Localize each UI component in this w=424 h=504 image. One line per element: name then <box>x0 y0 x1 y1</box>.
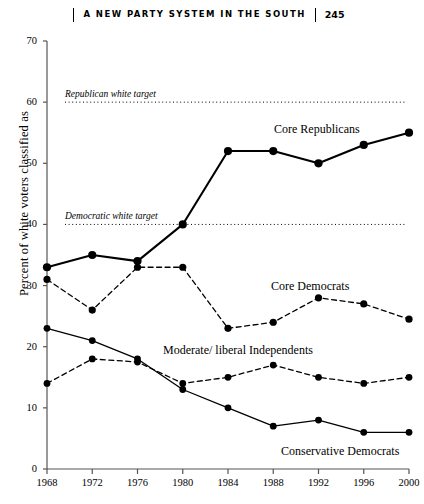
y-tick-label: 20 <box>11 342 37 353</box>
x-tick-label: 2000 <box>386 478 424 489</box>
reference-line-label: Republican white target <box>65 89 156 100</box>
y-tick-label: 10 <box>11 403 37 414</box>
series-label-core-republicans: Core Republicans <box>274 124 360 135</box>
y-tick-label: 30 <box>11 281 37 292</box>
series-label-core-democrats: Core Democrats <box>271 281 349 292</box>
reference-line-label: Democratic white target <box>65 211 158 222</box>
x-tick-label: 1968 <box>24 478 70 489</box>
y-tick-label: 40 <box>11 219 37 230</box>
y-tick-label: 50 <box>11 158 37 169</box>
x-tick-label: 1972 <box>69 478 115 489</box>
x-tick-label: 1976 <box>115 478 161 489</box>
y-tick-label: 60 <box>11 97 37 108</box>
x-tick-label: 1984 <box>205 478 251 489</box>
series-label-moderate-liberal-independents: Moderate/ liberal Independents <box>163 345 313 356</box>
y-tick-label: 70 <box>11 36 37 47</box>
x-tick-label: 1988 <box>250 478 296 489</box>
x-tick-label: 1980 <box>160 478 206 489</box>
x-tick-label: 1996 <box>341 478 387 489</box>
x-tick-label: 1992 <box>296 478 342 489</box>
series-label-conservative-democrats: Conservative Democrats <box>281 446 399 457</box>
y-tick-label: 0 <box>11 464 37 475</box>
